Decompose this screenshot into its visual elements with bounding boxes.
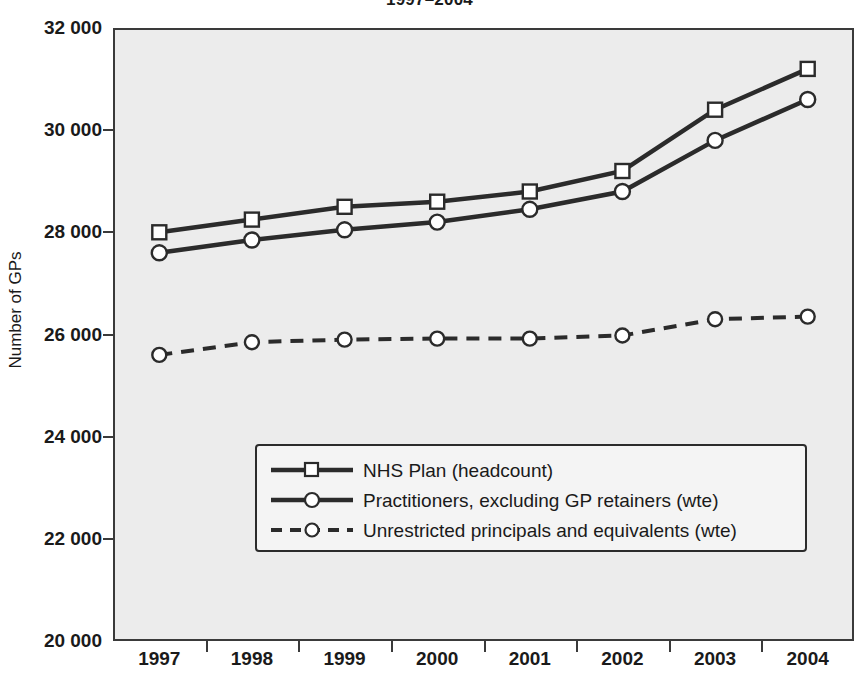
data-point-circle — [245, 335, 259, 349]
series-3 — [152, 310, 814, 362]
data-point-circle — [615, 184, 630, 199]
legend-item-2[interactable]: Practitioners, excluding GP retainers (w… — [269, 485, 793, 515]
data-point-square — [708, 103, 722, 117]
y-axis-tick-mark — [103, 334, 113, 336]
legend-marker-circle — [305, 493, 319, 507]
data-point-circle — [522, 202, 537, 217]
data-point-square — [338, 200, 352, 214]
data-point-circle — [708, 312, 722, 326]
data-point-circle — [800, 92, 815, 107]
x-axis-tick-mark — [669, 641, 671, 652]
y-axis-tick-label: 30 000 — [0, 119, 102, 141]
data-point-square — [801, 62, 815, 76]
y-axis-tick-mark — [103, 129, 113, 131]
y-axis-tick-label: 28 000 — [0, 221, 102, 243]
data-point-circle — [708, 133, 723, 148]
legend-sample-square — [269, 457, 355, 483]
legend-item-1[interactable]: NHS Plan (headcount) — [269, 455, 793, 485]
x-axis-tick-mark — [576, 641, 578, 652]
series-line — [159, 69, 807, 232]
legend-sample-circle — [269, 487, 355, 513]
y-axis-tick-label: 32 000 — [0, 17, 102, 39]
x-axis-tick-mark — [298, 641, 300, 652]
legend-label: Practitioners, excluding GP retainers (w… — [363, 491, 719, 510]
data-point-circle — [430, 332, 444, 346]
y-axis-tick-mark — [103, 231, 113, 233]
y-axis-tick-mark — [103, 538, 113, 540]
data-point-circle — [337, 222, 352, 237]
data-point-circle — [338, 333, 352, 347]
data-point-circle — [523, 332, 537, 346]
data-point-square — [245, 213, 259, 227]
y-axis-tick-label: 24 000 — [0, 426, 102, 448]
y-axis-title: Number of GPs — [6, 220, 26, 400]
data-point-square — [152, 225, 166, 239]
data-point-circle — [615, 329, 629, 343]
legend-marker-square — [305, 463, 318, 476]
y-axis-tick-mark — [103, 436, 113, 438]
x-axis-tick-mark — [391, 641, 393, 652]
series-1 — [152, 62, 814, 239]
legend-item-3[interactable]: Unrestricted principals and equivalents … — [269, 515, 793, 545]
series-line — [159, 100, 807, 253]
data-point-square — [615, 164, 629, 178]
x-axis-tick-mark — [206, 641, 208, 652]
chart-legend: NHS Plan (headcount)Practitioners, exclu… — [255, 444, 807, 552]
chart-title: 1997–2004 — [0, 0, 859, 10]
data-point-square — [523, 185, 537, 199]
y-axis-tick-label: 22 000 — [0, 528, 102, 550]
y-axis-tick-label: 20 000 — [0, 630, 102, 652]
x-axis-tick-label: 2004 — [748, 648, 859, 670]
y-axis-tick-label: 26 000 — [0, 324, 102, 346]
legend-marker-circle — [306, 524, 319, 537]
data-point-circle — [244, 233, 259, 248]
data-point-circle — [152, 348, 166, 362]
x-axis-tick-mark — [484, 641, 486, 652]
x-axis-tick-mark — [761, 641, 763, 652]
legend-label: NHS Plan (headcount) — [363, 461, 553, 480]
data-point-circle — [430, 215, 445, 230]
legend-sample-circle — [269, 517, 355, 543]
data-point-circle — [801, 310, 815, 324]
legend-label: Unrestricted principals and equivalents … — [363, 521, 737, 540]
data-point-circle — [152, 245, 167, 260]
data-point-square — [430, 195, 444, 209]
gp-numbers-line-chart: 1997–2004 Number of GPs 20 00022 00024 0… — [0, 0, 859, 688]
